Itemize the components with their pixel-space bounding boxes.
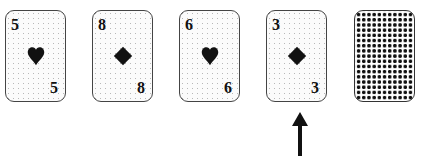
card-6-heart[interactable]: 6 6 (179, 10, 240, 102)
card-rank-top: 3 (272, 17, 280, 33)
card-3-diamond[interactable]: 3 3 (266, 10, 327, 102)
card-rank-top: 8 (98, 17, 106, 33)
up-arrow-icon (291, 112, 309, 156)
card-face-down[interactable] (354, 10, 415, 102)
diamond-icon (112, 45, 134, 67)
card-8-diamond[interactable]: 8 8 (92, 10, 153, 102)
heart-icon (25, 45, 47, 67)
card-5-heart[interactable]: 5 5 (5, 10, 66, 102)
card-rank-top: 5 (11, 17, 19, 33)
card-rank-top: 6 (185, 17, 193, 33)
card-rank-bottom: 5 (50, 80, 58, 96)
card-rank-bottom: 6 (224, 80, 232, 96)
diamond-icon (286, 45, 308, 67)
card-rank-bottom: 3 (311, 80, 319, 96)
card-rank-bottom: 8 (137, 80, 145, 96)
heart-icon (199, 45, 221, 67)
